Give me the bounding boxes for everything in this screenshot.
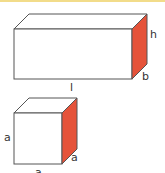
cuboid-top-face: [14, 14, 147, 29]
cube-left-label: a: [4, 131, 11, 144]
cuboid-front-face: [14, 29, 132, 79]
cube-front-face: [14, 113, 62, 164]
cube: a a a: [4, 98, 78, 173]
cuboid-length-label: l: [70, 81, 73, 94]
cube-bottom-label: a: [35, 166, 42, 173]
cuboid-breadth-label: b: [142, 70, 149, 83]
cube-side-label: a: [71, 151, 78, 164]
solids-diagram: h b l a a a: [0, 0, 165, 173]
cuboid-height-label: h: [150, 28, 157, 41]
cuboid: h b l: [14, 14, 157, 94]
